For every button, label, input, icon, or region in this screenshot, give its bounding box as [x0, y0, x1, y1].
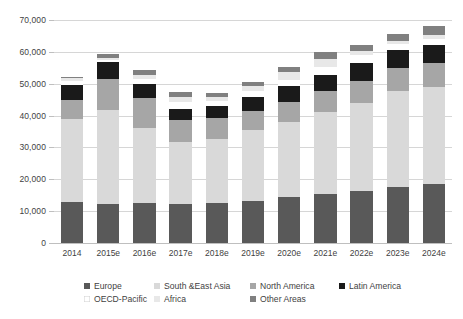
bar-segment	[242, 97, 264, 111]
bar-segment	[314, 52, 336, 59]
legend-item[interactable]: Europe	[84, 281, 122, 291]
bar-segment	[387, 91, 409, 187]
bar-segment	[242, 111, 264, 130]
legend-label: South &East Asia	[164, 281, 230, 291]
bar-segment	[133, 128, 155, 203]
x-axis-tick-label: 2022e	[350, 248, 374, 258]
bar-segment	[314, 194, 336, 243]
bar-segment	[169, 109, 191, 120]
legend-item[interactable]: OECD-Pacific	[84, 294, 147, 304]
bar-segment	[61, 119, 83, 202]
bar-segment	[133, 98, 155, 128]
bar-segment	[169, 204, 191, 244]
legend-item[interactable]: Africa	[154, 294, 186, 304]
bar-segment	[423, 87, 445, 184]
bar-segment	[278, 122, 300, 198]
y-axis-labels: 010,00020,00030,00040,00050,00060,00070,…	[0, 20, 48, 243]
bar-segment	[387, 50, 409, 68]
legend-label: Africa	[164, 294, 186, 304]
legend-swatch-icon	[154, 283, 160, 289]
bar-segment	[350, 103, 372, 191]
bar-segment	[97, 79, 119, 110]
legend-label: Europe	[94, 281, 122, 291]
bar-segment	[278, 102, 300, 121]
bar-segment	[169, 102, 191, 109]
x-axis-line	[54, 243, 452, 244]
legend-label: OECD-Pacific	[94, 294, 147, 304]
x-axis-tick-label: 2018e	[205, 248, 229, 258]
legend-label: Other Areas	[260, 294, 306, 304]
bar-stack	[242, 82, 264, 243]
y-axis-tick-label: 70,000	[19, 15, 46, 25]
bar-segment	[61, 100, 83, 120]
legend-item[interactable]: North America	[250, 281, 314, 291]
bar-stack	[206, 93, 228, 243]
y-axis-tick-label: 20,000	[19, 174, 46, 184]
x-axis-tick-label: 2016e	[133, 248, 157, 258]
bar-stack	[97, 54, 119, 243]
bar-segment	[423, 45, 445, 63]
bar-segment	[61, 202, 83, 243]
bar-segment	[423, 184, 445, 243]
bar-segment	[387, 187, 409, 243]
bars-layer	[54, 20, 452, 243]
legend-swatch-icon	[84, 296, 90, 302]
legend-swatch-icon	[339, 283, 345, 289]
bar-segment	[169, 142, 191, 204]
bar-stack	[350, 45, 372, 243]
bar-segment	[387, 68, 409, 91]
bar-segment	[314, 112, 336, 194]
x-axis-tick-label: 2015e	[96, 248, 120, 258]
chart-legend: EuropeSouth &East AsiaNorth AmericaLatin…	[54, 281, 454, 311]
y-axis-tick-label: 50,000	[19, 79, 46, 89]
y-axis-tick	[49, 243, 54, 244]
legend-item[interactable]: South &East Asia	[154, 281, 230, 291]
legend-label: North America	[260, 281, 314, 291]
bar-segment	[206, 118, 228, 139]
legend-swatch-icon	[250, 283, 256, 289]
bar-segment	[350, 63, 372, 80]
bar-stack	[133, 70, 155, 243]
y-axis-tick-label: 0	[41, 238, 46, 248]
bar-segment	[423, 63, 445, 87]
legend-swatch-icon	[250, 296, 256, 302]
bar-segment	[350, 55, 372, 63]
legend-item[interactable]: Latin America	[339, 281, 401, 291]
bar-segment	[133, 203, 155, 243]
bar-segment	[206, 106, 228, 118]
bar-stack	[314, 52, 336, 243]
legend-swatch-icon	[154, 296, 160, 302]
bar-segment	[278, 197, 300, 243]
plot-area	[54, 20, 452, 243]
bar-stack	[387, 34, 409, 243]
x-axis-tick-label: 2020e	[277, 248, 301, 258]
x-axis-tick-label: 2017e	[169, 248, 193, 258]
bar-segment	[206, 203, 228, 243]
bar-segment	[314, 59, 336, 67]
legend-item[interactable]: Other Areas	[250, 294, 306, 304]
bar-segment	[169, 120, 191, 142]
x-axis-tick-label: 2019e	[241, 248, 265, 258]
y-axis-tick-label: 60,000	[19, 47, 46, 57]
bar-segment	[61, 85, 83, 99]
bar-segment	[97, 110, 119, 205]
bar-segment	[314, 91, 336, 112]
x-axis-tick-label: 2024e	[422, 248, 446, 258]
y-axis-tick-label: 30,000	[19, 142, 46, 152]
bar-segment	[97, 204, 119, 243]
legend-label: Latin America	[349, 281, 401, 291]
bar-segment	[133, 84, 155, 98]
bar-segment	[423, 26, 445, 35]
bar-segment	[314, 67, 336, 74]
bar-segment	[242, 130, 264, 201]
bar-segment	[314, 75, 336, 92]
bar-segment	[350, 191, 372, 243]
bar-segment	[278, 86, 300, 102]
bar-stack	[61, 77, 83, 243]
x-axis-labels: 20142015e2016e2017e2018e2019e2020e2021e2…	[54, 245, 452, 263]
x-axis-tick-label: 2014	[63, 248, 82, 258]
y-axis-tick-label: 40,000	[19, 111, 46, 121]
legend-swatch-icon	[84, 283, 90, 289]
bar-segment	[97, 62, 119, 79]
bar-stack	[169, 92, 191, 243]
